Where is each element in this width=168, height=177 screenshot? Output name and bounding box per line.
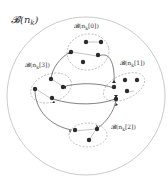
node — [49, 77, 53, 81]
node — [33, 87, 37, 91]
node — [112, 85, 116, 89]
node — [81, 60, 85, 64]
cluster-2-label: 𝓑(nk[2]) — [111, 123, 136, 132]
node — [123, 78, 127, 82]
arrowheads — [52, 51, 118, 133]
cluster-2-ellipse — [69, 123, 107, 147]
cluster-1-ellipse — [99, 67, 149, 107]
node — [99, 40, 103, 44]
node — [73, 128, 77, 132]
node — [50, 96, 54, 100]
node — [87, 138, 91, 142]
node — [125, 89, 129, 93]
node — [84, 40, 88, 44]
node — [96, 53, 100, 57]
outer-ball-label: 𝓑(nk) — [11, 14, 39, 27]
cluster-1-label: 𝓑(nk[1]) — [120, 59, 145, 68]
node — [135, 78, 139, 82]
cluster-0-label: 𝓑(nk[0]) — [74, 22, 99, 31]
ball-diagram: 𝓑(nk) 𝓑(nk[0]) 𝓑(nk[1]) 𝓑(nk[2]) 𝓑(nk[3]… — [0, 0, 168, 177]
cluster-3-label: 𝓑(nk[3]) — [25, 61, 50, 70]
